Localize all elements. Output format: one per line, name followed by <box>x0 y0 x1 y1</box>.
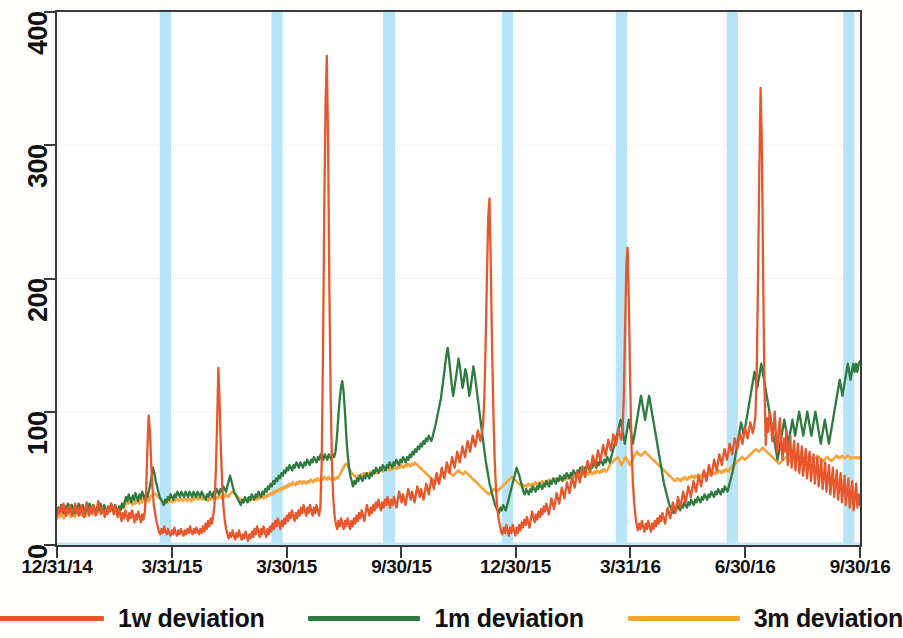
y-tick-label-200: 200 <box>26 278 53 322</box>
legend-1m-swatch-icon <box>308 616 420 621</box>
x-tick-label-6: 6/30/16 <box>715 556 776 578</box>
y-tick-label-100: 100 <box>26 411 53 455</box>
legend-1w-swatch-icon <box>0 616 104 621</box>
x-tick-label-3: 9/30/15 <box>371 556 432 578</box>
x-tick-label-2: 3/30/15 <box>256 556 317 578</box>
x-tick-label-7: 9/30/16 <box>830 556 891 578</box>
legend-1w[interactable]: 1w deviation <box>0 604 264 633</box>
y-tick-label-300: 300 <box>26 145 53 189</box>
series-line-1w-deviation <box>57 56 860 541</box>
x-tick-label-4: 12/30/15 <box>480 556 551 578</box>
chart-canvas <box>57 12 860 545</box>
y-tick-label-400: 400 <box>26 12 53 56</box>
x-tick-label-0: 12/31/14 <box>22 556 93 578</box>
shaded-band-7 <box>843 12 854 545</box>
legend-1m-label: 1m deviation <box>434 604 583 633</box>
legend-1w-label: 1w deviation <box>118 604 264 633</box>
legend-1m[interactable]: 1m deviation <box>308 604 583 633</box>
plot-area <box>55 10 862 547</box>
legend-3m[interactable]: 3m deviation <box>628 604 903 633</box>
legend-3m-swatch-icon <box>628 616 740 621</box>
plot-inner <box>57 12 860 545</box>
chart-legend: 1w deviation1m deviation3m deviation <box>0 598 895 638</box>
x-tick-label-1: 3/31/15 <box>142 556 203 578</box>
series-line-1m-deviation <box>57 348 860 513</box>
x-tick-label-5: 3/31/16 <box>600 556 661 578</box>
shaded-band-4 <box>502 12 513 545</box>
legend-3m-label: 3m deviation <box>754 604 903 633</box>
